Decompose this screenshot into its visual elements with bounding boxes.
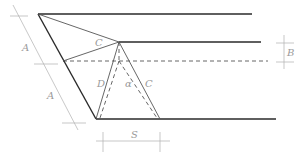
- geometry-diagram: C D α C A A B S: [0, 0, 305, 165]
- top-to-apex-line: [38, 14, 119, 42]
- label-D: D: [96, 78, 105, 89]
- label-C-top: C: [95, 37, 103, 48]
- label-C-right: C: [145, 78, 153, 89]
- label-alpha: α: [125, 78, 132, 89]
- dashed-right-leg: [119, 61, 157, 118]
- label-B: B: [286, 47, 294, 58]
- left-slanted-edge: [38, 14, 96, 119]
- label-A-upper: A: [21, 42, 29, 53]
- dashed-left-leg: [100, 61, 119, 118]
- label-A-lower: A: [46, 90, 54, 101]
- label-S: S: [131, 129, 138, 140]
- apex-to-left-edge-line: [63, 42, 119, 61]
